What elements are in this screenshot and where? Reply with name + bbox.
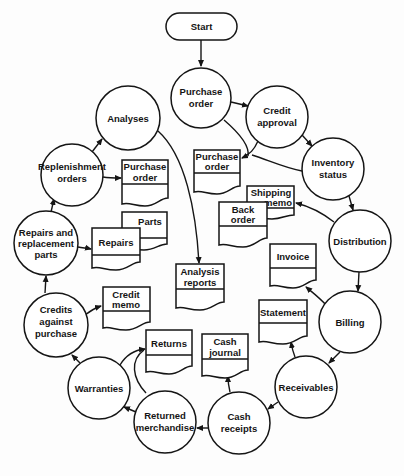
svg-text:Repairs: Repairs [99,237,134,248]
svg-text:order: order [133,172,158,183]
svg-text:reports: reports [184,277,217,288]
svg-text:Warranties: Warranties [75,383,124,394]
svg-text:Purchase: Purchase [180,86,223,97]
process-cash-receipts: Cash receipts [208,392,270,454]
flow-billing-to-receivables [329,352,340,363]
doc-repairs: Repairs [92,228,140,270]
svg-text:parts: parts [34,249,57,260]
process-distribution: Distribution [329,210,391,272]
process-billing: Billing [319,291,381,353]
svg-text:order: order [231,214,256,225]
process-credits-against-purchase: Credits against purchase [24,293,88,357]
flow-inventory-to-distribution [349,196,353,210]
flow-warranties-to-credits [72,355,80,363]
svg-text:order: order [189,98,214,109]
svg-text:receipts: receipts [221,423,257,434]
flow-credit-approval-to-inventory-status [302,135,312,146]
svg-text:status: status [319,169,347,180]
doc-analysis-reports: Analysis reports [176,264,224,310]
start-label: Start [191,21,213,32]
flow-returned-merchandise-to-warranties [124,407,136,412]
svg-text:approval: approval [257,117,297,128]
flow-repairs-to-repairs-doc [78,247,91,249]
svg-text:Analysis: Analysis [180,266,219,277]
svg-text:Credit: Credit [263,105,291,116]
doc-back-order: Back order [219,202,267,247]
flow-repairs-to-replenishment [51,199,54,212]
svg-text:Returns: Returns [151,338,187,349]
flowchart-canvas: Start Purchase order Credit approval Inv… [0,0,404,476]
svg-text:Replenishment: Replenishment [38,161,107,172]
svg-text:Purchase: Purchase [124,161,167,172]
process-repairs-replacement-parts: Repairs and replacement parts [14,211,78,275]
process-inventory-status: Inventory status [302,138,364,200]
svg-text:Repairs and: Repairs and [19,227,74,238]
process-returned-merchandise: Returned merchandise [134,391,196,453]
svg-text:memo: memo [112,299,140,310]
doc-cash-journal: Cash journal [202,334,248,378]
flow-replenishment-to-analyses [92,139,102,152]
flow-billing-to-invoice [306,287,327,306]
flow-returned-merchandise-to-returns [134,350,146,393]
doc-returns: Returns [146,330,192,374]
svg-text:Invoice: Invoice [277,251,310,262]
svg-text:Receivables: Receivables [279,382,334,393]
process-purchase-order: Purchase order [171,68,231,128]
svg-text:orders: orders [57,173,87,184]
flow-distribution-to-shipping-memo [296,203,334,222]
doc-invoice: Invoice [270,244,316,288]
process-credit-approval: Credit approval [246,86,308,148]
process-receivables: Receivables [275,356,337,418]
svg-text:purchase: purchase [35,328,77,339]
svg-text:Analyses: Analyses [107,113,149,124]
flow-receivables-to-cash-receipts [268,402,278,409]
doc-purchase-order-left: Purchase order [122,160,168,206]
svg-text:merchandise: merchandise [136,422,195,433]
svg-text:Cash: Cash [227,411,250,422]
svg-text:journal: journal [208,347,241,358]
flow-credits-to-repairs [45,276,46,293]
doc-purchase-order-right: Purchase order [194,150,240,194]
svg-text:memo: memo [264,197,292,208]
svg-text:Credits: Credits [40,304,73,315]
svg-text:order: order [205,161,230,172]
svg-text:Statement: Statement [260,307,307,318]
flow-receivables-to-statement [291,342,295,357]
doc-statement: Statement [259,300,307,344]
svg-text:Returned: Returned [144,410,186,421]
svg-text:against: against [39,316,73,327]
process-warranties: Warranties [68,357,130,419]
flow-credits-to-credit-memo [85,306,101,315]
doc-credit-memo: Credit memo [103,287,150,330]
flow-purchase-order-to-credit-approval [231,102,248,106]
process-replenishment-orders: Replenishment orders [38,144,107,206]
svg-text:Inventory: Inventory [312,157,355,168]
flow-replenishment-to-purchase-order-doc [103,177,121,178]
flow-distribution-to-billing [358,272,359,291]
svg-text:Billing: Billing [335,317,364,328]
svg-text:Parts: Parts [138,216,162,227]
svg-text:Distribution: Distribution [333,236,386,247]
start-terminal: Start [166,13,237,40]
process-analyses: Analyses [96,86,160,150]
svg-text:Cash: Cash [213,336,236,347]
flow-inventory-to-doc [252,155,302,171]
svg-text:replacement: replacement [18,238,75,249]
